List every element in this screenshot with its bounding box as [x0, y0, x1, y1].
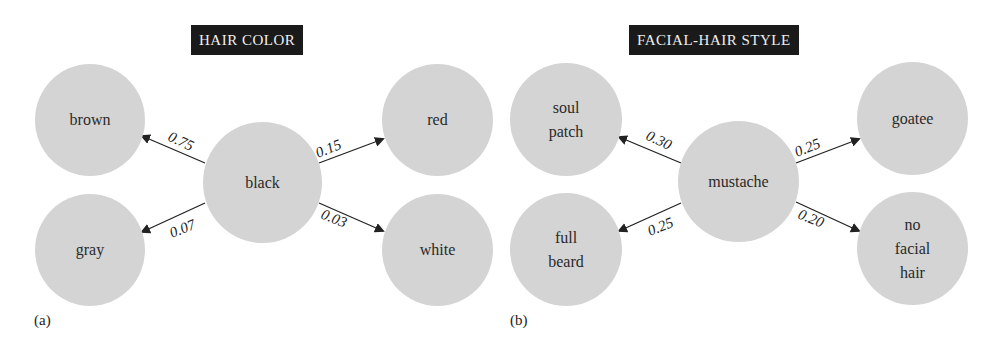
node-no-facial-hair: no facial hair	[857, 192, 968, 305]
panel-a-label: (a)	[34, 312, 51, 329]
edge-label-nofacialhair: 0.20	[796, 206, 827, 231]
panel-b-title: FACIAL-HAIR STYLE	[629, 25, 799, 55]
node-goatee: goatee	[857, 62, 968, 175]
node-label: gray	[76, 238, 104, 262]
panel-a-title: HAIR COLOR	[191, 25, 303, 55]
node-label: mustache	[708, 170, 768, 194]
edge-label-gray: 0.07	[167, 216, 199, 241]
node-full-beard: full beard	[510, 193, 622, 306]
node-label: goatee	[892, 107, 934, 131]
edges-layer: 0.75 0.15 0.07 0.03 0.30 0.25 0.25 0.20	[0, 0, 998, 356]
edge-label-brown: 0.75	[166, 128, 197, 154]
node-black-center: black	[203, 122, 322, 243]
node-brown: brown	[35, 64, 145, 176]
node-soul-patch: soul patch	[510, 63, 622, 176]
node-red: red	[382, 64, 493, 176]
node-label: no facial hair	[895, 213, 931, 285]
node-white: white	[382, 194, 493, 306]
node-gray: gray	[35, 194, 145, 306]
edge-label-goatee: 0.25	[792, 135, 823, 160]
node-label: soul patch	[549, 96, 584, 144]
node-label: black	[245, 171, 280, 195]
edge-label-white: 0.03	[319, 206, 349, 231]
panel-b-label: (b)	[510, 312, 528, 329]
node-mustache-center: mustache	[678, 121, 799, 242]
node-label: red	[427, 108, 447, 132]
node-label: full beard	[548, 226, 584, 274]
node-label: white	[420, 238, 456, 262]
edge-label-red: 0.15	[313, 136, 344, 161]
node-label: brown	[70, 108, 111, 132]
